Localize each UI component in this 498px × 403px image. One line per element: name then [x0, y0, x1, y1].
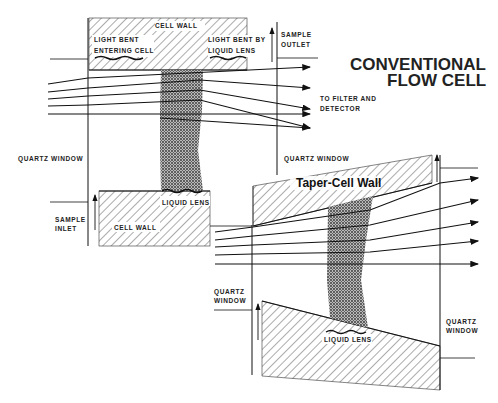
sample-inlet-label-1: SAMPLE: [55, 216, 86, 223]
taper-wall-label: Taper-Cell Wall: [296, 176, 381, 190]
taper-quartz-right-2: WINDOW: [446, 327, 478, 334]
light-bent-entering-label-2: ENTERING CELL: [94, 47, 154, 54]
light-bent-entering-label-1: LIGHT BENT: [94, 36, 139, 43]
sample-outlet-label-1: SAMPLE: [281, 31, 312, 38]
taper-quartz-left-1: QUARTZ: [214, 288, 245, 296]
sample-outlet-label-2: OUTLET: [281, 41, 311, 48]
to-filter-label-2: DETECTOR: [320, 105, 360, 112]
cell-wall-top-label: CELL WALL: [155, 22, 197, 29]
quartz-window-right-label: QUARTZ WINDOW: [284, 155, 349, 163]
light-bent-lens-label-1: LIGHT BENT BY: [208, 36, 266, 43]
conventional-cell: CELL WALL LIGHT BENT ENTERING CELL LIGHT…: [18, 18, 376, 246]
to-filter-label-1: TO FILTER AND: [320, 95, 376, 102]
diagram-svg: CELL WALL LIGHT BENT ENTERING CELL LIGHT…: [0, 0, 498, 403]
taper-cell: Taper-Cell Wall QUARTZ WINDOW QUARTZ WIN…: [210, 155, 478, 390]
taper-quartz-left-2: WINDOW: [214, 297, 246, 304]
liquid-lens-label: LIQUID LENS: [162, 199, 210, 207]
quartz-window-left-label: QUARTZ WINDOW: [18, 155, 83, 163]
sample-inlet-label-2: INLET: [55, 225, 77, 232]
flow-cell-diagram: CELL WALL LIGHT BENT ENTERING CELL LIGHT…: [0, 0, 498, 403]
taper-liquid-lens-label: LIQUID LENS: [324, 336, 372, 344]
light-bent-lens-label-2: LIQUID LENS: [208, 47, 256, 55]
cell-wall-bottom-label: CELL WALL: [114, 224, 156, 231]
title-line2: FLOW CELL: [387, 71, 486, 90]
taper-quartz-right-1: QUARTZ: [446, 318, 477, 326]
liquid-lens-column: [160, 70, 203, 191]
